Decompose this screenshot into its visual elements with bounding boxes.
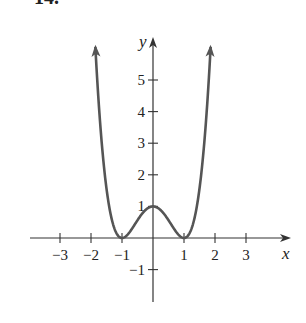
- function-graph: xy−3−2−1123−112345: [0, 0, 306, 323]
- x-tick-label: −3: [52, 247, 68, 263]
- x-tick-label: 3: [242, 247, 250, 263]
- x-tick-label: 2: [211, 247, 219, 263]
- y-axis-label: y: [137, 32, 147, 51]
- x-tick-label: 1: [180, 247, 188, 263]
- y-tick-label: −1: [129, 262, 145, 278]
- tick-labels: xy−3−2−1123−112345: [52, 32, 290, 278]
- x-tick-label: −2: [83, 247, 99, 263]
- y-tick-label: 2: [138, 167, 146, 183]
- y-tick-label: 3: [138, 135, 146, 151]
- axes: [30, 37, 291, 302]
- y-tick-label: 4: [138, 104, 146, 120]
- x-tick-label: −1: [114, 247, 130, 263]
- x-axis-label: x: [281, 244, 290, 263]
- y-tick-label: 5: [138, 72, 146, 88]
